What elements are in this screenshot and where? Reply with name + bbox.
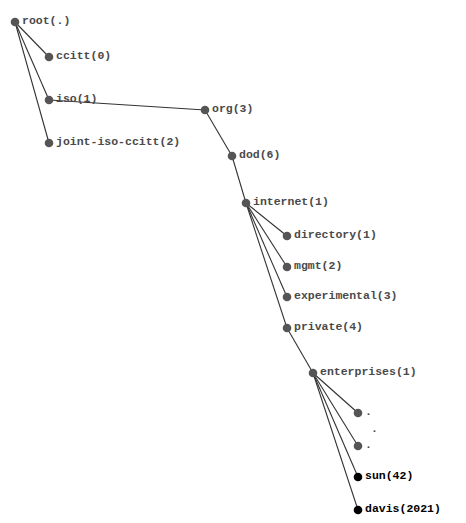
node-directory-dot-icon xyxy=(283,232,292,241)
node-org-dot-icon xyxy=(201,106,210,115)
node-label-ccitt: ccitt(0) xyxy=(56,50,111,62)
edge-internet-private xyxy=(246,203,287,328)
node-label-dots1: . xyxy=(365,406,372,418)
node-experimental-dot-icon xyxy=(283,293,292,302)
node-ccitt-dot-icon xyxy=(45,53,54,62)
node-label-iso: iso(1) xyxy=(56,93,97,105)
node-label-enterprises: enterprises(1) xyxy=(320,366,417,378)
node-dots1-dot-icon xyxy=(354,409,363,418)
node-label-mgmt: mgmt(2) xyxy=(294,260,342,272)
tree-edges xyxy=(0,0,466,523)
node-label-joint: joint-iso-ccitt(2) xyxy=(56,136,180,148)
node-label-org: org(3) xyxy=(212,103,253,115)
node-label-internet: internet(1) xyxy=(253,196,329,208)
node-root-dot-icon xyxy=(11,18,20,27)
edge-org-dod xyxy=(205,110,232,156)
node-dots2-dot-icon xyxy=(354,442,363,451)
node-label-dod: dod(6) xyxy=(239,149,280,161)
node-davis-dot-icon xyxy=(354,506,363,515)
edge-internet-experimental xyxy=(246,203,287,297)
node-mgmt-dot-icon xyxy=(283,263,292,272)
edge-dod-internet xyxy=(232,156,246,203)
edge-private-enterprises xyxy=(287,328,313,373)
node-iso-dot-icon xyxy=(45,96,54,105)
node-label-experimental: experimental(3) xyxy=(294,290,398,302)
edge-root-iso xyxy=(15,22,49,100)
node-label-davis: davis(2021) xyxy=(365,503,441,515)
node-sun-dot-icon xyxy=(354,473,363,482)
edge-enterprises-sun xyxy=(313,373,358,477)
node-joint-dot-icon xyxy=(45,139,54,148)
ellipsis-dot: . xyxy=(371,423,378,435)
node-label-root: root(.) xyxy=(22,15,70,27)
node-label-private: private(4) xyxy=(294,321,363,333)
edge-enterprises-dots2 xyxy=(313,373,358,446)
edge-internet-mgmt xyxy=(246,203,287,267)
node-internet-dot-icon xyxy=(242,199,251,208)
node-dod-dot-icon xyxy=(228,152,237,161)
node-private-dot-icon xyxy=(283,324,292,333)
node-enterprises-dot-icon xyxy=(309,369,318,378)
oid-tree-diagram: root(.)ccitt(0)iso(1)joint-iso-ccitt(2)o… xyxy=(0,0,466,523)
node-label-sun: sun(42) xyxy=(365,470,413,482)
node-label-dots2: . xyxy=(365,439,372,451)
node-label-directory: directory(1) xyxy=(294,229,377,241)
